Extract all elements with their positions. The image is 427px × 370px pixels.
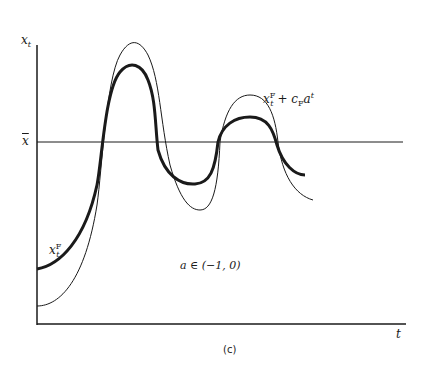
chart-canvas: [0, 0, 427, 370]
y-axis-label: xt: [21, 34, 31, 49]
series-xf-plus-cfat: [37, 43, 313, 306]
x-axis-label: t: [396, 328, 401, 340]
parameter-annotation: a ∈ (−1, 0): [180, 260, 240, 271]
panel-label: (c): [223, 344, 236, 355]
series-xf-plus-cfat-label: xFt + cFat: [263, 92, 314, 108]
series-xf-label: xFt: [49, 243, 60, 259]
xbar-label: x: [22, 135, 29, 147]
